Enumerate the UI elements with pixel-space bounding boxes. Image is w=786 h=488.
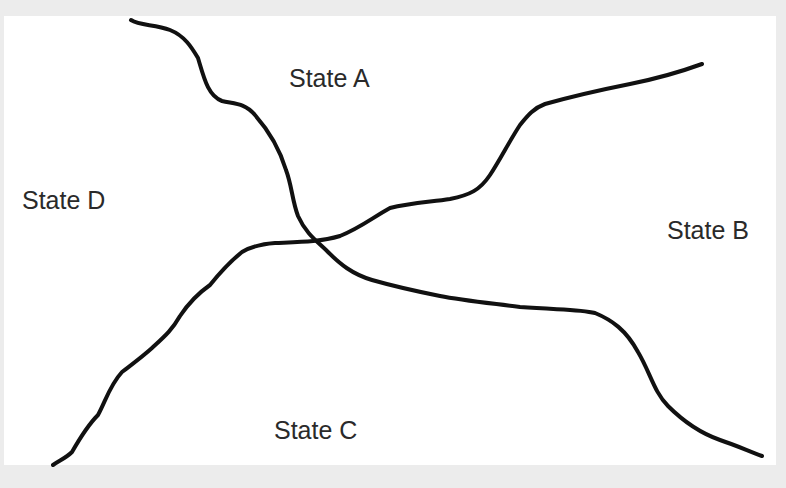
state-a-label: State A [289,66,370,91]
state-b-label: State B [667,218,749,243]
state-c-label: State C [274,418,357,443]
state-d-label: State D [22,188,105,213]
boundary-curve-2 [53,64,702,465]
boundary-curves [0,0,786,488]
